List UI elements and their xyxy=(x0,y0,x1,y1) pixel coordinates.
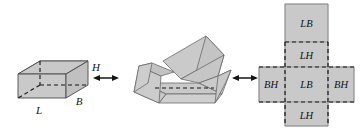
cuboid-label-height: H xyxy=(91,61,101,73)
partial-fold-group xyxy=(134,36,231,103)
net-group: LB LH BH LB BH LH xyxy=(259,4,354,126)
arrow-right xyxy=(232,75,258,81)
cuboid-group: L B H xyxy=(18,61,101,116)
net-label-top-face: LB xyxy=(299,18,313,29)
cuboid-front-face xyxy=(18,74,66,98)
fold-front-flap xyxy=(159,94,222,103)
figure-svg: L B H xyxy=(0,0,362,128)
cuboid-label-breadth: B xyxy=(76,95,83,107)
net-label-base-face: LB xyxy=(299,79,313,90)
arrow-left xyxy=(93,75,119,81)
net-label-right-face: BH xyxy=(334,79,349,90)
net-label-left-face: BH xyxy=(264,79,279,90)
net-label-upper-side-face: LH xyxy=(299,50,315,61)
cuboid-label-length: L xyxy=(35,104,42,116)
net-label-lower-side-face: LH xyxy=(299,110,315,121)
figure-root: L B H xyxy=(0,0,362,128)
